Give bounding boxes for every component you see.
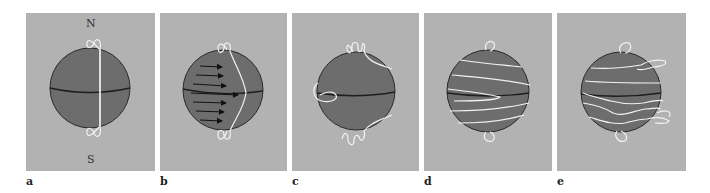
panel-label-d: d bbox=[424, 175, 432, 188]
panel-b bbox=[160, 13, 287, 171]
panel-a: N S bbox=[26, 13, 155, 171]
panel-label-c: c bbox=[292, 175, 299, 188]
sphere-diagram-c bbox=[292, 13, 419, 171]
panel-label-b: b bbox=[160, 175, 168, 188]
sphere-diagram-a bbox=[26, 13, 155, 171]
panel-label-a: a bbox=[26, 175, 33, 188]
sphere-diagram-d bbox=[424, 13, 552, 171]
sphere-diagram-e bbox=[557, 13, 686, 171]
panel-c bbox=[292, 13, 419, 171]
panel-e bbox=[557, 13, 686, 171]
sphere-diagram-b bbox=[160, 13, 287, 171]
panel-label-e: e bbox=[557, 175, 564, 188]
panel-d bbox=[424, 13, 552, 171]
